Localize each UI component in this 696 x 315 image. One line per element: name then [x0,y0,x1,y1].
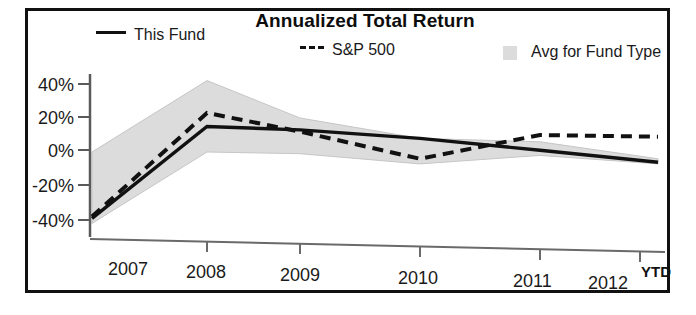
y-axis-label-20: 20% [38,108,74,128]
plot-area: 40% 20% 0% -20% -40% 2007 2008 2009 2010… [0,0,696,315]
y-axis-label-40: 40% [38,75,74,95]
x-axis-ytd-label: YTD [641,263,671,280]
x-axis-label-2007: 2007 [108,259,148,279]
x-axis-label-2010: 2010 [398,268,438,288]
y-axis-label-neg40: -40% [32,211,74,231]
y-axis-label-neg20: -20% [32,176,74,196]
x-axis-label-2008: 2008 [186,262,226,282]
annualized-total-return-chart: Annualized Total Return This Fund S&P 50… [0,0,696,315]
y-axis-label-0: 0% [48,141,74,161]
x-axis-label-2012: 2012 [588,273,628,293]
x-axis-line [90,239,665,252]
x-axis-label-2011: 2011 [513,271,552,291]
x-axis-label-2009: 2009 [280,265,320,285]
